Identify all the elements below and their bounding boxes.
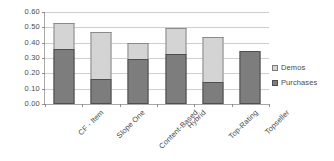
bar-stack[interactable] <box>90 32 111 104</box>
bar-group[interactable] <box>45 12 82 104</box>
y-tick-label: 0.50 <box>25 23 40 31</box>
bar-stack[interactable] <box>165 28 186 104</box>
bars-layer <box>45 12 269 104</box>
bar-stack[interactable] <box>53 23 74 104</box>
bar-group[interactable] <box>232 12 269 104</box>
plot-area: 0.600.500.400.300.200.100.00 <box>44 12 269 105</box>
x-axis-labels: CF - ItemSlope OneContent-BasedHybridTop… <box>44 108 268 161</box>
y-tick-label: 0.30 <box>25 54 40 62</box>
y-tick-label: 0.60 <box>25 8 40 16</box>
bar-segment-purchases[interactable] <box>53 49 74 104</box>
y-tick-label: 0.40 <box>25 39 40 47</box>
bar-segment-purchases[interactable] <box>240 51 261 104</box>
y-tick-label: 0.10 <box>25 85 40 93</box>
x-axis-label: Topseller <box>263 108 291 136</box>
bar-group[interactable] <box>82 12 119 104</box>
x-axis-label: Slope One <box>115 108 147 140</box>
legend-item-demos: Demos <box>272 64 332 72</box>
bar-segment-demos[interactable] <box>128 43 149 59</box>
x-tick-mark <box>45 104 46 107</box>
bar-segment-purchases[interactable] <box>128 59 149 104</box>
x-tick-mark <box>269 104 270 107</box>
bar-segment-demos[interactable] <box>202 37 223 82</box>
bar-segment-demos[interactable] <box>90 32 111 79</box>
legend-item-purchases: Purchases <box>272 79 332 87</box>
bar-group[interactable] <box>194 12 231 104</box>
y-tick-label: 0.20 <box>25 69 40 77</box>
bar-group[interactable] <box>120 12 157 104</box>
legend-label-purchases: Purchases <box>281 79 317 87</box>
chart-legend: Demos Purchases <box>272 64 332 94</box>
x-tick-mark <box>82 104 83 107</box>
x-axis-label: Top-Rating <box>227 108 260 141</box>
x-tick-mark <box>120 104 121 107</box>
legend-swatch-demos-icon <box>272 65 278 71</box>
bar-segment-purchases[interactable] <box>165 54 186 104</box>
bar-stack[interactable] <box>128 43 149 104</box>
y-tick-label: 0.00 <box>25 100 40 108</box>
bar-segment-purchases[interactable] <box>90 79 111 104</box>
x-tick-mark <box>157 104 158 107</box>
bar-group[interactable] <box>157 12 194 104</box>
bar-segment-demos[interactable] <box>53 23 74 49</box>
bar-chart: 0.600.500.400.300.200.100.00 CF - ItemSl… <box>0 0 334 161</box>
x-tick-mark <box>194 104 195 107</box>
legend-swatch-purchases-icon <box>272 80 278 86</box>
bar-stack[interactable] <box>202 37 223 104</box>
x-axis-label: CF - Item <box>77 108 106 137</box>
legend-label-demos: Demos <box>281 64 305 72</box>
bar-stack[interactable] <box>240 51 261 104</box>
x-tick-mark <box>232 104 233 107</box>
bar-segment-purchases[interactable] <box>202 82 223 104</box>
bar-segment-demos[interactable] <box>165 28 186 54</box>
